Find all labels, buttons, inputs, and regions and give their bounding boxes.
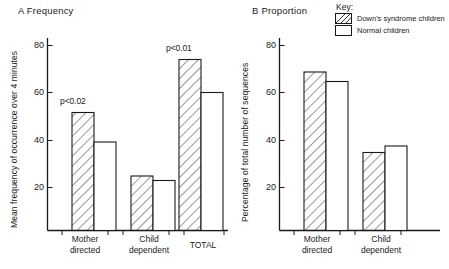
bar-b-mother-normal bbox=[326, 82, 348, 231]
bar-b-child-downs bbox=[363, 153, 385, 231]
panel-b-bars bbox=[304, 72, 407, 231]
bar-a-mother-downs bbox=[72, 113, 94, 231]
bar-a-total-normal bbox=[201, 93, 223, 231]
bar-b-child-normal bbox=[385, 146, 407, 231]
figure-canvas: A Frequency B Proportion Mean frequency … bbox=[0, 0, 449, 269]
bar-a-child-normal bbox=[153, 181, 175, 231]
panel-a-bars bbox=[72, 60, 223, 231]
bar-a-mother-normal bbox=[94, 142, 116, 231]
plot-area bbox=[0, 0, 449, 269]
bar-a-total-downs bbox=[179, 60, 201, 231]
bar-a-child-downs bbox=[131, 176, 153, 231]
bar-b-mother-downs bbox=[304, 72, 326, 231]
